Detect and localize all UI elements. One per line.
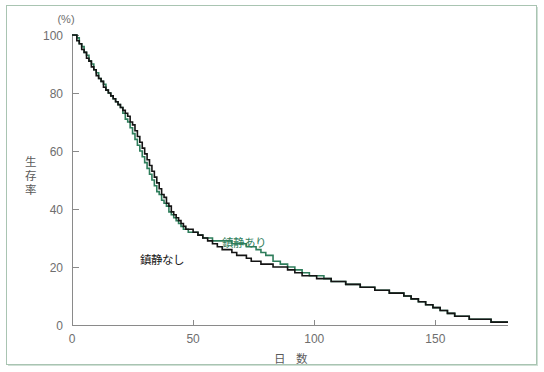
series-label-2: 鎮静なし [140,253,184,266]
series-curve-2 [72,35,508,322]
y-tick-label: 60 [50,145,64,159]
y-axis-title-char: 率 [25,183,36,196]
x-axis-title: 日 数 [274,352,308,365]
y-tick-label: 100 [43,29,63,43]
kaplan-meier-plot: 020406080100050100150(%)日 数生存率鎮静あり鎮静なし [0,0,544,372]
y-tick-label: 20 [50,261,64,275]
y-tick-label: 40 [50,203,64,217]
y-axis-title: 生存率 [25,155,36,196]
y-tick-label: 80 [50,87,64,101]
x-tick-label: 150 [425,332,445,346]
x-tick-label: 50 [186,332,200,346]
labels-layer: 020406080100050100150(%)日 数生存率鎮静あり鎮静なし [25,13,446,365]
y-axis-title-char: 生 [25,155,36,168]
x-tick-label: 0 [69,332,76,346]
series-curve-1 [72,35,508,322]
axes-layer [72,35,508,326]
survival-curve-figure: 020406080100050100150(%)日 数生存率鎮静あり鎮静なし [0,0,544,372]
y-tick-label: 0 [56,319,63,333]
y-axis-unit-label: (%) [57,13,74,25]
series-label-1: 鎮静あり [222,236,266,249]
curves-layer [72,35,508,322]
x-tick-label: 100 [304,332,324,346]
y-axis-title-char: 存 [25,169,36,182]
